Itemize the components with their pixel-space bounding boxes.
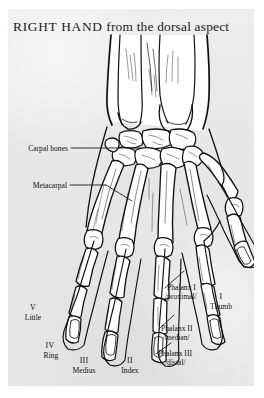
label-phalanx-2-sub: /median/ xyxy=(163,333,190,342)
label-phalanx-2: Phalanx II xyxy=(161,324,192,333)
digit-numeral-iv: IV xyxy=(37,341,63,350)
label-metacarpal: Metacarpal xyxy=(8,181,67,190)
middle-phalanges xyxy=(69,283,220,334)
metacarpals-group xyxy=(87,153,238,245)
digit-numeral-iii: III xyxy=(71,356,97,365)
digit-name-little: Little xyxy=(14,313,52,322)
label-phalanx-3-sub: /distal/ xyxy=(165,358,186,367)
forearm-group xyxy=(107,35,209,131)
digit-name-medius: Medius xyxy=(65,366,103,375)
hand-skeleton-illustration xyxy=(8,9,254,386)
label-phalanx-3: Phalanx III xyxy=(158,349,192,358)
digit-name-index: Index xyxy=(111,366,149,375)
label-carpal-bones: Carpal bones xyxy=(8,144,68,153)
label-phalanx-1: Phalanx I xyxy=(167,283,196,292)
digit-numeral-ii: II xyxy=(117,356,143,365)
digit-name-thumb: Thumb xyxy=(202,302,240,311)
label-phalanx-1-sub: /proximal/ xyxy=(165,292,197,301)
digit-numeral-i: I xyxy=(208,292,234,301)
digit-name-ring: Ring xyxy=(32,351,70,360)
atlas-page: RIGHT HAND from the dorsal aspect xyxy=(8,9,254,386)
digit-numeral-v: V xyxy=(20,303,46,312)
